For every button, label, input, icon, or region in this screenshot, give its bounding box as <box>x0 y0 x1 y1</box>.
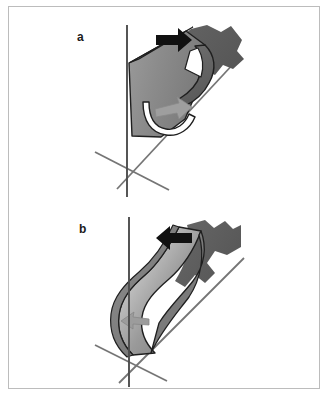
figure-root: a <box>0 0 329 401</box>
panel-label-b: b <box>79 223 86 235</box>
panel-a: a <box>9 7 321 203</box>
panel-b: b <box>9 203 321 390</box>
panel-b-illustration <box>9 203 321 390</box>
diagonal-axis-left <box>95 152 169 190</box>
panel-a-illustration <box>9 7 321 203</box>
panel-label-a: a <box>77 31 84 43</box>
figure-frame: a <box>8 6 320 389</box>
